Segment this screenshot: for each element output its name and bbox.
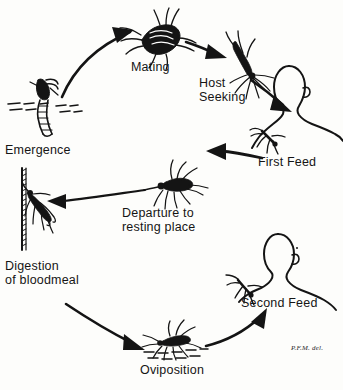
arrow-emergence-to-mating bbox=[62, 27, 134, 97]
stage-label-first-feed: First Feed bbox=[258, 156, 316, 170]
stage-label-digestion-of-bloodmeal: Digestionof bloodmeal bbox=[5, 259, 79, 287]
stage-label-emergence: Emergence bbox=[5, 144, 71, 158]
stage-label-departure-to-resting-place: Departure toresting place bbox=[122, 206, 195, 234]
diagram-artwork bbox=[0, 0, 343, 390]
stage-label-mating: Mating bbox=[131, 61, 170, 75]
engorged-mosquito-flying-icon bbox=[144, 160, 208, 209]
arrow-oviposition-to-second-feed bbox=[206, 308, 267, 346]
stage-label-host-seeking-line1: Host bbox=[199, 76, 226, 90]
mosquito-life-cycle-diagram: Emergence Mating HostSeeking First Feed … bbox=[0, 0, 343, 390]
stage-label-digestion-line2: of bloodmeal bbox=[5, 273, 79, 287]
stage-label-oviposition: Oviposition bbox=[140, 364, 204, 378]
arrow-digestion-to-oviposition bbox=[66, 304, 145, 350]
stage-label-digestion-line1: Digestion bbox=[5, 259, 59, 273]
mosquito-laying-eggs-on-water-icon bbox=[142, 320, 208, 360]
pupa-emerging-from-water-icon bbox=[8, 79, 82, 136]
stage-label-host-seeking: HostSeeking bbox=[199, 76, 246, 104]
stage-label-departure-line2: resting place bbox=[122, 220, 195, 234]
stage-label-departure-line1: Departure to bbox=[122, 206, 194, 220]
mosquito-resting-on-wall-icon bbox=[22, 168, 55, 250]
arrow-host-seeking-to-host bbox=[251, 80, 292, 112]
stage-label-host-seeking-line2: Seeking bbox=[199, 90, 246, 104]
artist-signature: P.F.M. del. bbox=[291, 344, 323, 352]
stage-label-second-feed: Second Feed bbox=[241, 297, 318, 311]
